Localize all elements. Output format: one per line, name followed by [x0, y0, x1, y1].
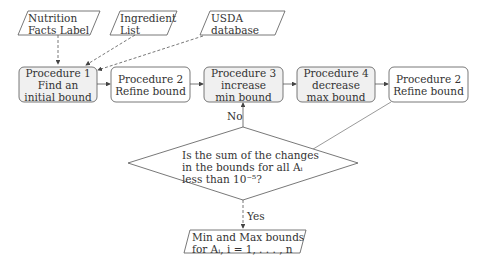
flowchart-canvas	[0, 0, 478, 264]
line: increase	[204, 79, 283, 91]
edge-no-label: No	[227, 110, 243, 122]
line: min bound	[204, 91, 283, 103]
line: Nutrition	[28, 12, 89, 24]
proc2a-label: Procedure 2 Refine bound	[111, 73, 190, 97]
proc1-label: Procedure 1 Find an initial bound	[19, 67, 97, 103]
line: max bound	[297, 91, 375, 103]
proc4-label: Procedure 4 decrease max bound	[297, 67, 375, 103]
line: Procedure 4	[297, 67, 375, 79]
input-ingredient-label: Ingredient List	[120, 12, 176, 36]
line: for Aᵢ, i = 1, . . . , n	[192, 243, 304, 255]
line: Min and Max bounds	[192, 231, 304, 243]
line: Procedure 3	[204, 67, 283, 79]
line: Refine bound	[111, 85, 190, 97]
line: Procedure 2	[111, 73, 190, 85]
input-usda-label: USDA database	[211, 12, 259, 36]
line: Procedure 1	[19, 67, 97, 79]
line: in the bounds for all Aᵢ	[182, 161, 319, 173]
line: Is the sum of the changes	[182, 149, 319, 161]
line: List	[120, 24, 176, 36]
input-nutrition-label: Nutrition Facts Label	[28, 12, 89, 36]
line: Find an	[19, 79, 97, 91]
line: USDA	[211, 12, 259, 24]
output-label: Min and Max bounds for Aᵢ, i = 1, . . . …	[192, 231, 304, 255]
proc2b-label: Procedure 2 Refine bound	[389, 73, 468, 97]
line: less than 10⁻⁵?	[182, 173, 319, 185]
line: Procedure 2	[389, 73, 468, 85]
line: Refine bound	[389, 85, 468, 97]
line: Facts Label	[28, 24, 89, 36]
line: initial bound	[19, 91, 97, 103]
line: database	[211, 24, 259, 36]
line: Ingredient	[120, 12, 176, 24]
line: decrease	[297, 79, 375, 91]
decision-label: Is the sum of the changes in the bounds …	[182, 149, 319, 185]
edge-yes-label: Yes	[247, 210, 265, 222]
proc3-label: Procedure 3 increase min bound	[204, 67, 283, 103]
